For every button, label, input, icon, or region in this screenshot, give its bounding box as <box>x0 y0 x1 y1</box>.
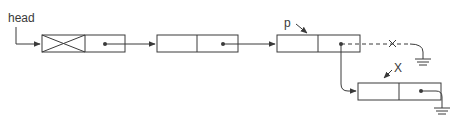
x-pointer-arrow <box>384 70 392 78</box>
p-pointer-arrow <box>296 24 307 33</box>
node-3 <box>277 35 360 52</box>
ground-null-icon <box>415 59 431 65</box>
ground-null-icon <box>434 108 450 114</box>
head-label: head <box>8 11 35 25</box>
head-pointer-arrow <box>16 27 40 44</box>
p-label: p <box>284 16 291 30</box>
linked-list-diagram: head p X <box>0 0 465 124</box>
x-label: X <box>394 61 402 75</box>
old-link-bend <box>410 44 423 59</box>
